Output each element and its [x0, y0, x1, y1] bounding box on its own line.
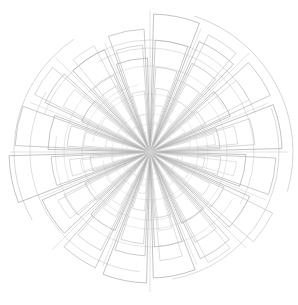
polar-rose-chart [0, 0, 298, 305]
polar-chart-canvas [0, 0, 298, 305]
